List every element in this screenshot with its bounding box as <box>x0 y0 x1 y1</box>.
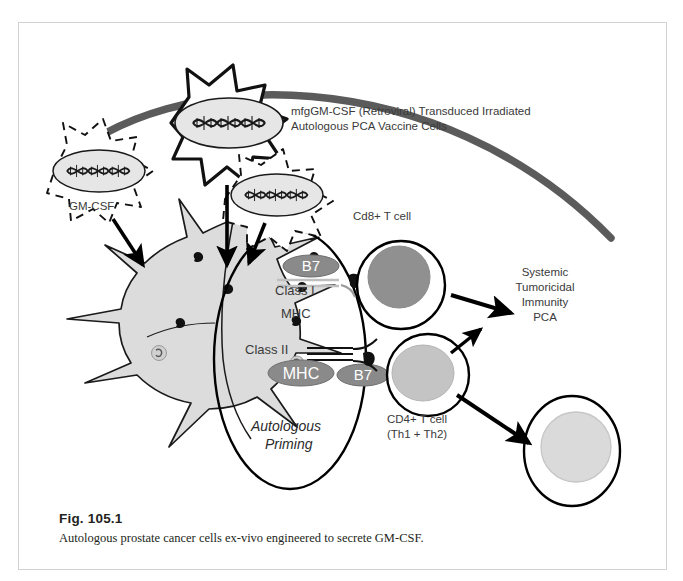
gm-csf-label: GM-CSF <box>69 200 114 212</box>
tumor-target-cell <box>524 396 620 506</box>
cd8-t-cell-label: Cd8+ T cell <box>353 210 411 222</box>
mhc-ii-molecule: MHC <box>268 360 334 386</box>
b7-lower-molecule: B7 <box>337 364 389 386</box>
figure-caption: Fig. 105.1 Autologous prostate cancer ce… <box>59 511 619 547</box>
cd8-t-cell <box>357 241 445 329</box>
vaccine-cells-label-line1: mfgGM-CSF (Retroviral) Transduced Irradi… <box>291 105 531 117</box>
cd4-t-cell-label-line2: (Th1 + Th2) <box>387 428 447 440</box>
autologous-priming-label-line1: Autologous <box>250 418 321 434</box>
figure-caption-text: Autologous prostate cancer cells ex-vivo… <box>59 531 619 547</box>
class-i-label: Class I <box>275 283 315 298</box>
b7-upper-label: B7 <box>302 257 320 274</box>
diagram-canvas: B7 MHC B7 <box>19 23 668 571</box>
systemic-label-line4: PCA <box>533 311 557 323</box>
systemic-label-line2: Tumoricidal <box>515 281 574 293</box>
mhc-ii-label: MHC <box>283 365 319 382</box>
mhc-i-label: MHC <box>281 306 311 321</box>
b7-upper-molecule: B7 <box>283 255 339 277</box>
autologous-priming-label-line2: Priming <box>265 436 313 452</box>
systemic-label-line1: Systemic <box>522 266 569 278</box>
figure-number: Fig. 105.1 <box>59 511 619 526</box>
systemic-label-line3: Immunity <box>522 296 569 308</box>
b7-lower-label: B7 <box>354 366 372 383</box>
class-ii-label: Class II <box>245 342 288 357</box>
figure-frame: B7 MHC B7 <box>18 22 667 570</box>
cd4-t-cell-label-line1: CD4+ T cell <box>387 413 447 425</box>
vaccine-cells-label-line2: Autologous PCA Vaccine Cells <box>291 120 447 132</box>
